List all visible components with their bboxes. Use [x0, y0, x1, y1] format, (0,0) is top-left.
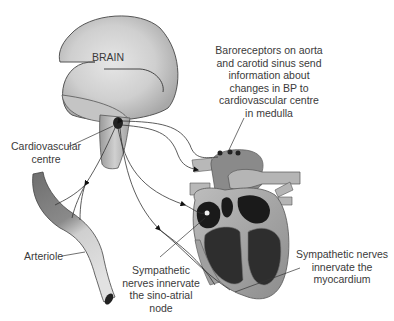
heart	[190, 150, 300, 299]
myocardium-annotation: Sympathetic nerves innervate the myocard…	[292, 248, 392, 286]
brain-label: BRAIN	[92, 51, 124, 63]
arteriole-vessel	[33, 172, 115, 302]
baroreceptors-annotation: Baroreceptors on aorta and carotid sinus…	[205, 44, 333, 119]
brain	[59, 16, 178, 123]
cardiovascular-centre-node	[113, 117, 123, 129]
arteriole-label: Arteriole	[24, 250, 63, 263]
cardiovascular-centre-label: Cardiovascular centre	[6, 140, 86, 165]
sa-node-annotation: Sympathetic nerves innervate the sino-at…	[122, 264, 200, 314]
